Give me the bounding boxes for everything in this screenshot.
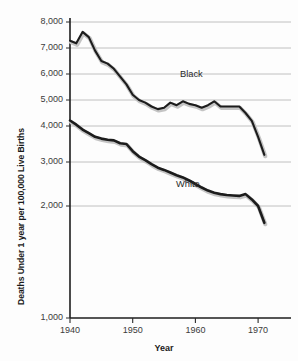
y-tick-label: 8,000 xyxy=(23,16,63,26)
data-series-group xyxy=(70,32,265,224)
infant-mortality-line-chart: Deaths Under 1 year per 100,000 Live Bir… xyxy=(0,0,298,361)
x-tick-label: 1950 xyxy=(113,325,153,335)
y-tick-label: 3,000 xyxy=(23,156,63,166)
series-label-white: White xyxy=(176,179,200,189)
x-tick-label: 1970 xyxy=(238,325,278,335)
y-tick-label: 6,000 xyxy=(23,68,63,78)
chart-plot-area xyxy=(0,0,298,361)
series-line-black xyxy=(70,32,264,155)
y-tick-label: 1,000 xyxy=(23,312,63,322)
y-tick-label: 2,000 xyxy=(23,200,63,210)
x-tick-label: 1960 xyxy=(175,325,215,335)
series-label-black: Black xyxy=(180,69,203,79)
y-tick-label: 4,000 xyxy=(23,120,63,130)
series-line-white xyxy=(70,121,264,223)
x-tick-label: 1940 xyxy=(50,325,90,335)
y-tick-label: 5,000 xyxy=(23,94,63,104)
x-axis-title: Year xyxy=(124,343,204,353)
y-tick-label: 7,000 xyxy=(23,42,63,52)
